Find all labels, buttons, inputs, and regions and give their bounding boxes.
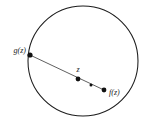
unit-circle-outline (28, 6, 138, 116)
label-z: z (75, 65, 80, 74)
point-midpoint (90, 84, 93, 87)
label-g-of-z: g(z) (14, 46, 27, 55)
geodesic-segment (30, 55, 104, 90)
point-g-of-z (27, 52, 32, 57)
figure-container: g(z) z f(z) (0, 0, 147, 126)
point-z (76, 77, 81, 82)
geometric-diagram: g(z) z f(z) (0, 0, 147, 126)
label-f-of-z: f(z) (109, 88, 120, 97)
point-f-of-z (102, 88, 107, 93)
